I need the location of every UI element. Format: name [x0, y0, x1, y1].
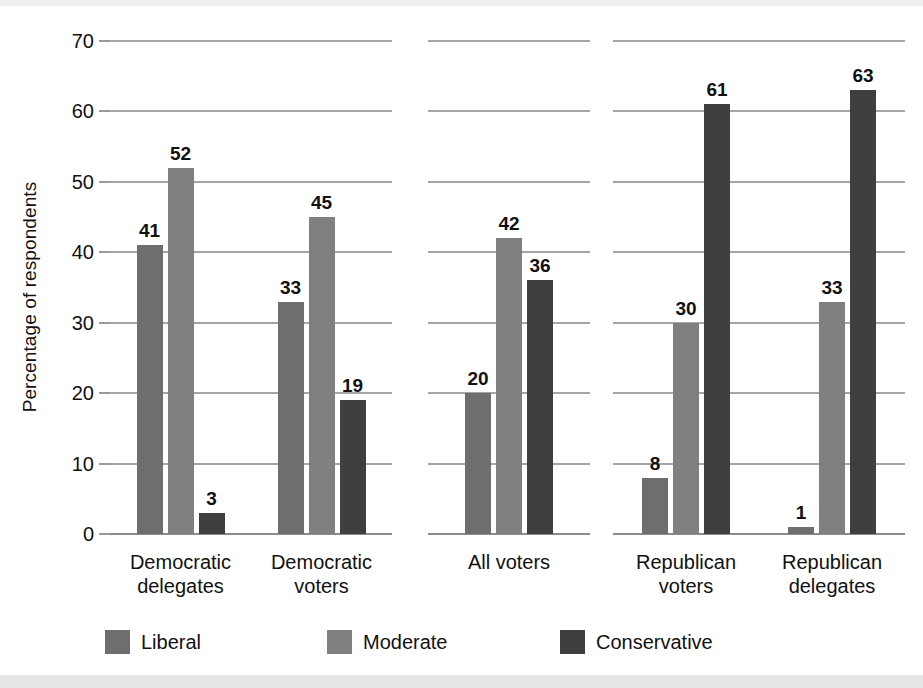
y-tick-label: 20: [48, 383, 94, 403]
legend-label: Conservative: [596, 631, 713, 654]
bar: [199, 513, 225, 534]
y-tick-label: 60: [48, 101, 94, 121]
bar: [642, 478, 668, 534]
bar-value-label: 3: [182, 489, 242, 508]
bar: [465, 393, 491, 534]
bar-value-label: 42: [479, 214, 539, 233]
bar: [278, 302, 304, 534]
bar: [704, 104, 730, 534]
y-tick-label: 30: [48, 313, 94, 333]
all-voters-panel: 204236All voters: [428, 0, 590, 688]
y-axis-title: Percentage of respondents: [19, 62, 41, 532]
y-tick-label: 40: [48, 242, 94, 262]
grouped-bar-chart: Percentage of respondents 01020304050607…: [0, 0, 923, 688]
x-axis-group-label: Democratic voters: [232, 551, 412, 598]
bar: [496, 238, 522, 534]
gridline: [428, 181, 590, 183]
bar-value-label: 36: [510, 256, 570, 275]
bar-value-label: 19: [323, 376, 383, 395]
gridline: [110, 40, 392, 42]
republican-panel: 83061Republican voters13363Republican de…: [613, 0, 905, 688]
bar: [340, 400, 366, 534]
legend-item-liberal[interactable]: Liberal: [105, 629, 201, 655]
democratic-panel: 41523Democratic delegates334519Democrati…: [110, 0, 392, 688]
bar-value-label: 61: [687, 80, 747, 99]
legend-label: Moderate: [363, 631, 448, 654]
y-tick-label: 50: [48, 172, 94, 192]
gridline: [110, 181, 392, 183]
bar: [527, 280, 553, 534]
x-axis-group-label: Republican delegates: [742, 551, 922, 598]
y-tick-label: 70: [48, 31, 94, 51]
legend-swatch-icon: [560, 630, 585, 654]
legend-swatch-icon: [327, 630, 352, 654]
bar: [819, 302, 845, 534]
x-axis-group-label: All voters: [419, 551, 599, 575]
bar: [137, 245, 163, 534]
bar-value-label: 45: [292, 193, 352, 212]
legend-item-moderate[interactable]: Moderate: [327, 629, 448, 655]
bar: [168, 168, 194, 534]
bar: [673, 323, 699, 534]
bar: [788, 527, 814, 534]
y-tick-label: 0: [48, 524, 94, 544]
gridline: [428, 40, 590, 42]
y-tick-label: 10: [48, 454, 94, 474]
bar-value-label: 63: [833, 66, 893, 85]
bar-value-label: 52: [151, 144, 211, 163]
gridline: [110, 110, 392, 112]
gridline: [428, 110, 590, 112]
legend-label: Liberal: [141, 631, 201, 654]
legend-swatch-icon: [105, 630, 130, 654]
gridline: [613, 40, 905, 42]
legend-item-conservative[interactable]: Conservative: [560, 629, 713, 655]
bar: [850, 90, 876, 534]
